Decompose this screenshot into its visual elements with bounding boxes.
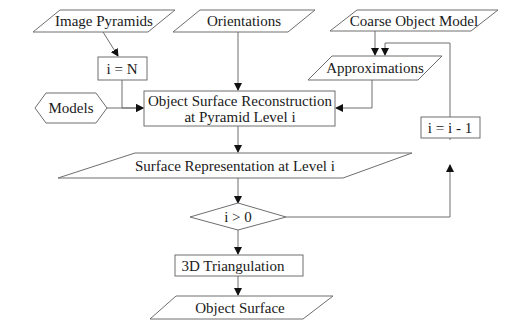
- node-reconstruction: Object Surface Reconstruction at Pyramid…: [144, 91, 335, 126]
- node-surface-representation: Surface Representation at Level i: [58, 153, 412, 178]
- flowchart-canvas: Image Pyramids Orientations Coarse Objec…: [0, 0, 505, 331]
- i-equals-n-label: i = N: [107, 61, 138, 77]
- node-image-pyramids: Image Pyramids: [33, 10, 175, 32]
- triangulation-label: 3D Triangulation: [182, 258, 285, 274]
- node-approximations: Approximations: [308, 56, 442, 80]
- node-object-surface: Object Surface: [150, 296, 333, 319]
- edge-image-pyramids-to-i-n: [103, 32, 118, 56]
- edge-i-n-to-reconstruction: [122, 80, 143, 108]
- object-surface-label: Object Surface: [195, 300, 285, 316]
- node-decrement: i = i - 1: [421, 117, 480, 138]
- node-coarse-object-model: Coarse Object Model: [330, 10, 498, 31]
- orientations-label: Orientations: [207, 13, 281, 29]
- models-label: Models: [49, 100, 94, 116]
- surface-representation-label: Surface Representation at Level i: [135, 158, 335, 174]
- node-orientations: Orientations: [173, 10, 315, 32]
- node-condition: i > 0: [190, 203, 286, 230]
- image-pyramids-label: Image Pyramids: [55, 13, 153, 29]
- reconstruction-label-line1: Object Surface Reconstruction: [148, 93, 333, 109]
- node-models: Models: [35, 93, 107, 123]
- decrement-label: i = i - 1: [428, 120, 472, 136]
- reconstruction-label-line2: at Pyramid Level i: [184, 109, 295, 125]
- coarse-object-model-label: Coarse Object Model: [350, 13, 478, 29]
- node-triangulation: 3D Triangulation: [175, 255, 303, 276]
- approximations-label: Approximations: [326, 60, 424, 76]
- edge-approximations-to-reconstruction: [336, 80, 372, 108]
- condition-label: i > 0: [224, 209, 252, 225]
- node-i-equals-n: i = N: [98, 57, 147, 80]
